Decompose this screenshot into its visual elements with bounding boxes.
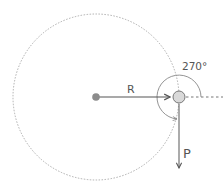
radius-label: R	[127, 83, 135, 96]
orbit-diagram: R P 270°	[0, 0, 223, 189]
center-dot	[92, 93, 100, 101]
momentum-label: P	[183, 146, 191, 161]
orbiting-body	[173, 91, 185, 103]
angle-label: 270°	[182, 60, 207, 72]
